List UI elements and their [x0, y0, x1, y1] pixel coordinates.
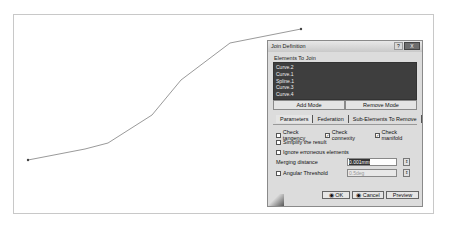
simplify-checkbox[interactable]	[276, 140, 281, 145]
close-button[interactable]: X	[404, 42, 420, 50]
check-connexity-checkbox[interactable]: ✓	[325, 133, 330, 138]
simplify-label: Simplify the result	[283, 139, 326, 145]
list-item[interactable]: Curve.2	[276, 64, 414, 71]
join-definition-dialog: Join Definition ? X Elements To Join Cur…	[267, 40, 423, 207]
angular-threshold-spinner[interactable]: ⇕	[403, 169, 410, 177]
ignore-erroneous-label: Ignore erroneous elements	[283, 149, 349, 155]
tab-federation[interactable]: Federation	[313, 115, 348, 123]
elements-list[interactable]: Curve.2 Curve.1 Spline.1 Curve.3 Curve.4	[273, 62, 417, 100]
cancel-button[interactable]: ◉ Cancel	[352, 191, 384, 199]
angular-threshold-input[interactable]: 0.5deg	[347, 169, 397, 177]
tab-parameters[interactable]: Parameters	[276, 115, 313, 123]
angular-threshold-label: Angular Threshold	[283, 170, 328, 176]
preview-button[interactable]: Preview	[386, 191, 419, 199]
check-connexity-label: Check connexity	[332, 129, 370, 141]
check-tangency-checkbox[interactable]	[276, 133, 281, 138]
check-manifold-checkbox[interactable]: ✓	[375, 133, 380, 138]
title-bar[interactable]: Join Definition ? X	[268, 41, 422, 52]
help-button[interactable]: ?	[394, 42, 403, 50]
elements-group-label: Elements To Join	[274, 55, 316, 61]
list-item[interactable]: Spline.1	[276, 78, 414, 85]
tab-sub-elements[interactable]: Sub-Elements To Remove	[349, 115, 422, 123]
merging-distance-input[interactable]: 0.001mm	[347, 158, 397, 166]
ignore-erroneous-checkbox[interactable]	[276, 150, 281, 155]
list-item[interactable]: Curve.4	[276, 91, 414, 98]
merging-distance-spinner[interactable]: ⇕	[403, 158, 410, 166]
parameters-panel: Check tangency ✓ Check connexity ✓ Check…	[273, 124, 417, 189]
list-item[interactable]: Curve.3	[276, 84, 414, 91]
tab-bar: Parameters Federation Sub-Elements To Re…	[276, 115, 422, 123]
angular-threshold-checkbox[interactable]	[276, 171, 281, 176]
add-mode-button[interactable]: Add Mode	[273, 100, 345, 110]
list-item[interactable]: Curve.1	[276, 71, 414, 78]
merging-distance-label: Merging distance	[276, 159, 318, 165]
check-manifold-label: Check manifold	[382, 129, 418, 141]
ok-button[interactable]: ◉ OK	[322, 191, 350, 199]
remove-mode-button[interactable]: Remove Mode	[345, 100, 417, 110]
dialog-title: Join Definition	[271, 43, 306, 49]
logo-icon	[268, 194, 284, 206]
